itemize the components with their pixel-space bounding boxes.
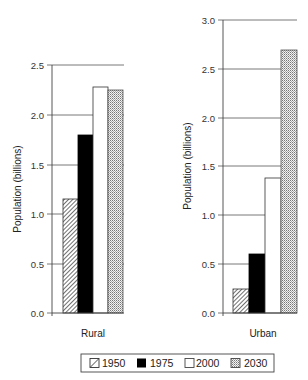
urban-tick-label: 2.0: [202, 113, 215, 124]
rural-bar-1950: [63, 199, 78, 313]
urban-y-axis-label: Population (billions): [182, 122, 193, 209]
rural-ticks: [47, 65, 52, 313]
legend-label: 1950: [102, 357, 126, 369]
urban-tick-label: 2.5: [202, 64, 215, 75]
urban-tick-label: 3.0: [202, 15, 215, 26]
population-bar-chart: 0.0 0.5 1.0 1.5 2.0 2.5 Population (bill…: [0, 0, 308, 380]
rural-tick-label: 1.5: [31, 160, 44, 171]
urban-tick-label: 0.0: [202, 308, 215, 319]
rural-panel: 0.0 0.5 1.0 1.5 2.0 2.5 Population (bill…: [12, 60, 124, 340]
urban-tick-label: 1.0: [202, 210, 215, 221]
urban-bar-2030: [281, 50, 297, 313]
rural-tick-label: 2.0: [31, 110, 44, 121]
urban-tick-label: 1.5: [202, 161, 215, 172]
rural-tick-label: 1.0: [31, 209, 44, 220]
urban-bar-1975: [249, 254, 265, 313]
urban-category-label: Urban: [249, 328, 276, 339]
rural-bar-2030: [108, 90, 123, 313]
rural-tick-label: 2.5: [31, 60, 44, 71]
legend-label: 2000: [196, 357, 220, 369]
urban-bar-2000: [265, 178, 281, 313]
urban-ticks: [218, 20, 223, 313]
legend-item-1950: 1950: [90, 357, 126, 369]
stipple-swatch-icon: [231, 359, 240, 368]
rural-y-axis-label: Population (billions): [12, 145, 23, 232]
legend-label: 2030: [244, 357, 268, 369]
rural-tick-label: 0.5: [31, 259, 44, 270]
legend: 1950 1975 2000 2030: [81, 354, 274, 372]
urban-bar-1950: [233, 289, 249, 313]
urban-tick-labels: 0.0 0.5 1.0 1.5 2.0 2.5 3.0: [202, 15, 215, 319]
rural-category-label: Rural: [81, 328, 105, 339]
legend-item-2030: 2030: [231, 357, 268, 369]
legend-item-1975: 1975: [137, 357, 174, 369]
legend-label: 1975: [150, 357, 174, 369]
urban-tick-label: 0.5: [202, 259, 215, 270]
rural-tick-labels: 0.0 0.5 1.0 1.5 2.0 2.5: [31, 60, 44, 319]
rural-bar-1975: [78, 135, 93, 313]
rural-bar-2000: [93, 87, 108, 313]
rural-tick-label: 0.0: [31, 308, 44, 319]
white-swatch-icon: [185, 359, 194, 368]
legend-item-2000: 2000: [185, 357, 220, 369]
urban-panel: 0.0 0.5 1.0 1.5 2.0 2.5 3.0 Population (…: [182, 15, 297, 340]
solid-black-swatch-icon: [137, 359, 146, 368]
